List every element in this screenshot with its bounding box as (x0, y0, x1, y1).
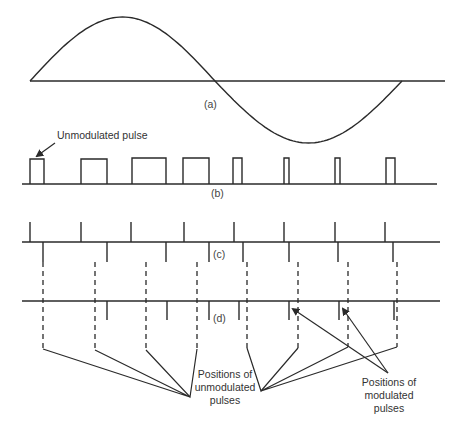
reference-dashed-lines (43, 262, 397, 350)
mod-line-1: Positions of (362, 376, 416, 388)
unmod-line-1: Positions of (198, 368, 252, 380)
pulse-8 (386, 158, 395, 184)
modulated-arrow-2-icon (343, 309, 388, 373)
modulated-arrow-1-icon (293, 309, 388, 373)
pulse-2 (81, 159, 107, 184)
panel-b-caption: (b) (211, 187, 224, 199)
panel-b: Unmodulated pulse (b) (22, 129, 437, 199)
mod-line-2: modulated (364, 389, 413, 401)
unmodulated-positions-label: Positions of unmodulated pulses (195, 368, 256, 406)
panel-d-caption: (d) (213, 312, 226, 324)
pulse-5 (233, 158, 242, 184)
leader-unmod-2 (146, 349, 197, 397)
panel-c: (c) (22, 222, 440, 262)
panel-a: (a) (30, 17, 445, 143)
pwm-pulse-train (30, 158, 395, 184)
unmod-line-3: pulses (210, 394, 240, 406)
pulse-3 (132, 158, 166, 184)
sine-wave-signal (30, 17, 402, 143)
pulse-6 (284, 158, 289, 184)
pulse-1 (30, 159, 44, 184)
unmodulated-pulse-label: Unmodulated pulse (57, 129, 148, 141)
panel-d: (d) (22, 262, 440, 350)
ppm-pulse-train (107, 301, 394, 320)
unmod-line-2: unmodulated (195, 381, 256, 393)
pulse-4 (183, 158, 209, 184)
modulated-positions-label: Positions of modulated pulses (362, 376, 416, 414)
unmodulated-pulse-arrow-icon (37, 143, 55, 156)
ppm-diagram: (a) Unmodulated pulse (b) (c) (d) Positi… (0, 0, 461, 434)
panel-c-caption: (c) (213, 248, 225, 260)
pulse-7 (335, 158, 340, 184)
panel-a-caption: (a) (204, 98, 217, 110)
mod-line-3: pulses (374, 402, 404, 414)
